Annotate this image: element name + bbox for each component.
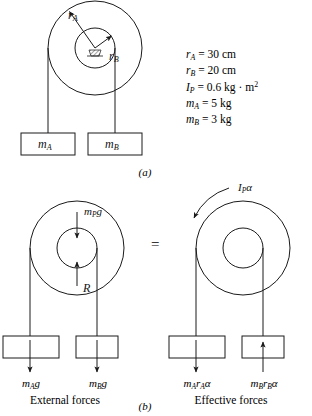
part-b-effective-forces-diagram (169, 188, 290, 372)
given-value-mA: mA = 5 kg (186, 97, 231, 111)
pivot-support-a (87, 50, 103, 56)
radius-label-inner-a: rB (109, 50, 119, 64)
block-ext-left (3, 336, 59, 358)
outer-pulley-circle-eff (196, 201, 290, 295)
radius-label-outer-a: rA (68, 9, 78, 23)
equals-sign: = (151, 236, 159, 253)
reaction-label: R (83, 282, 90, 294)
pulley-weight-label: mPg (84, 206, 102, 219)
part-a-pulley-assembly (21, 1, 142, 155)
inner-pulley-circle-eff (223, 228, 263, 268)
given-value-rB: rB = 20 cm (186, 64, 236, 78)
force-label-external-left: mAg (14, 377, 48, 391)
force-label-effective-left: mArAα (171, 377, 223, 391)
force-label-effective-right: mBrBα (238, 377, 290, 391)
block-label-a-left: mA (38, 138, 52, 152)
torque-label: IPα (238, 182, 252, 195)
figure-page: rA rB mA mB rA = 30 cm rB = 20 cm IP = 0… (0, 0, 312, 416)
part-b-external-forces-diagram (3, 201, 124, 372)
radius-arrow-inner-a (95, 36, 112, 48)
caption-effective-forces: Effective forces (176, 394, 286, 406)
given-value-mB: mB = 3 kg (186, 113, 231, 127)
given-value-rA: rA = 30 cm (186, 48, 236, 62)
figure-vector-canvas (0, 0, 312, 416)
caption-external-forces: External forces (10, 394, 120, 406)
block-label-a-right: mB (105, 138, 119, 152)
force-label-external-right: mBg (81, 377, 115, 391)
block-eff-left (169, 336, 225, 358)
figure-label-a: (a) (125, 166, 165, 178)
figure-label-b: (b) (125, 400, 165, 412)
given-value-IP: IP = 0.6 kg · m2 (186, 80, 258, 95)
